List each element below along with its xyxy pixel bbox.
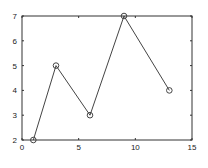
x-tick-label: 15 [188,143,197,152]
y-tick-label: 3 [13,111,18,120]
y-tick-label: 5 [13,62,18,71]
x-tick-label: 5 [76,143,81,152]
plot-frame [22,16,192,140]
y-tick-label: 6 [13,37,18,46]
x-tick-label: 0 [20,143,25,152]
y-tick-label: 7 [13,12,18,21]
line-chart: 051015 234567 [0,0,208,168]
y-tick-label: 2 [13,136,18,145]
x-tick-label: 10 [131,143,140,152]
y-tick-label: 4 [13,86,18,95]
